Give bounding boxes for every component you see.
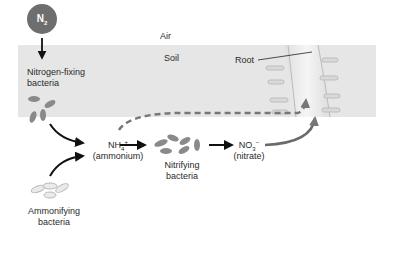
nitrifying-label: Nitrifying bacteria bbox=[157, 160, 207, 182]
nitrogen-fixing-label: Nitrogen-fixing bacteria bbox=[27, 67, 85, 89]
nitrate-label: NO3− (nitrate) bbox=[232, 140, 266, 162]
root-label: Root bbox=[235, 55, 254, 66]
ammonium-label: NH4+ (ammonium) bbox=[88, 140, 148, 162]
ammonifying-label: Ammonifying bacteria bbox=[24, 206, 84, 228]
soil-label: Soil bbox=[164, 53, 179, 64]
n2-label: N2 bbox=[30, 13, 54, 24]
arrow-nitrate-to-root bbox=[265, 118, 315, 145]
ammonifying-bacteria-cluster bbox=[30, 182, 69, 198]
arrow-fixing-to-ammonium bbox=[50, 124, 83, 143]
nitrifying-bacteria-cluster bbox=[153, 133, 200, 155]
arrow-ammonifying-to-ammonium bbox=[50, 156, 83, 176]
air-label: Air bbox=[160, 31, 171, 42]
